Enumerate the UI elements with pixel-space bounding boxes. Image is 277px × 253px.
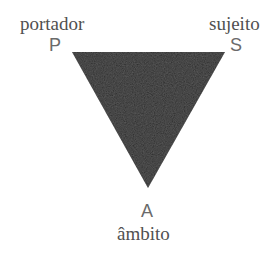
vertex-letter-p: P	[49, 36, 61, 54]
inverted-triangle-shape	[72, 52, 225, 188]
vertex-letter-s: S	[230, 36, 242, 54]
vertex-word-portador: portador	[20, 14, 84, 33]
vertex-word-sujeito: sujeito	[209, 14, 260, 33]
vertex-letter-a: A	[141, 202, 153, 220]
diagram-canvas: portador P sujeito S A âmbito	[0, 0, 277, 253]
vertex-word-ambito: âmbito	[117, 224, 170, 243]
